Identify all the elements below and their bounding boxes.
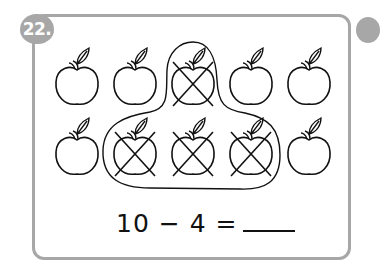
apple-icon xyxy=(56,48,98,104)
apple-icon-crossed xyxy=(230,118,272,176)
apple-icon xyxy=(114,48,156,104)
apple-icon-crossed xyxy=(172,118,214,176)
apple-icon xyxy=(288,48,330,104)
apple-icon-crossed xyxy=(172,48,214,106)
equation-text: 10 − 4 = xyxy=(116,209,237,238)
apple-icon xyxy=(56,118,98,174)
apple-icon xyxy=(230,48,272,104)
apple-icon-crossed xyxy=(114,118,156,176)
answer-blank[interactable] xyxy=(243,208,295,232)
apple-icon xyxy=(288,118,330,174)
equation: 10 − 4 = xyxy=(116,208,295,238)
